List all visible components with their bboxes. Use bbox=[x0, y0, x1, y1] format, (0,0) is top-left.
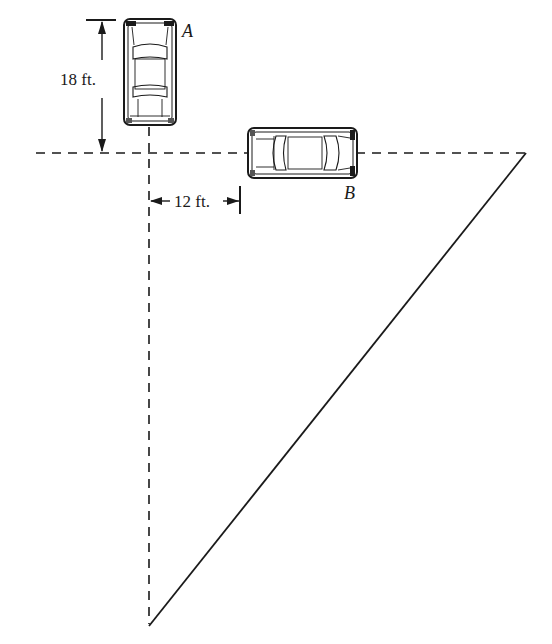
arrow-left-icon bbox=[150, 197, 162, 205]
car-b bbox=[248, 128, 357, 178]
hypotenuse-line bbox=[149, 153, 526, 626]
label-18ft: 18 ft. bbox=[60, 70, 96, 89]
dimension-12ft: 12 ft. bbox=[150, 186, 240, 214]
car-b-label: B bbox=[344, 183, 355, 203]
car-a bbox=[124, 19, 176, 125]
diagram-canvas: 18 ft. 12 ft. A bbox=[0, 0, 552, 644]
arrow-right-icon bbox=[227, 197, 239, 205]
label-12ft: 12 ft. bbox=[174, 192, 210, 211]
dimension-18ft: 18 ft. bbox=[60, 20, 116, 152]
car-a-label: A bbox=[181, 21, 194, 41]
arrow-up-icon bbox=[98, 21, 106, 34]
arrow-down-icon bbox=[98, 139, 106, 152]
